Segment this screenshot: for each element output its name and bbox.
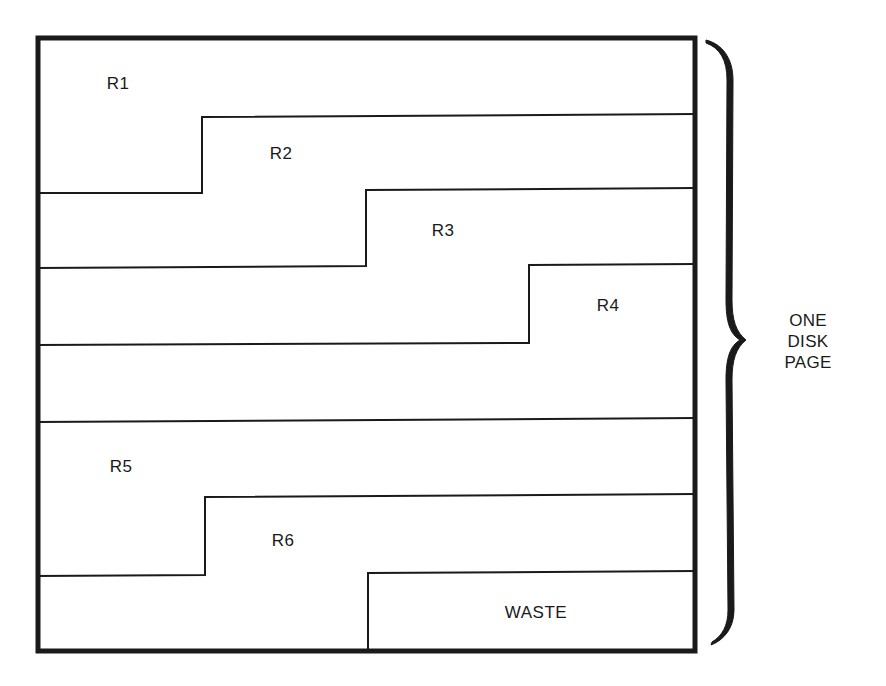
waste-label: WASTE: [505, 603, 567, 623]
curly-brace-icon: [706, 40, 746, 645]
one-disk-page-label-line-2: PAGE: [769, 352, 847, 373]
record-label-r6: R6: [272, 531, 295, 551]
disk-page-diagram: R1 R2 R3 R4 R5 R6 WASTE ONE DISK PAGE: [0, 0, 886, 686]
diagram-canvas: [0, 0, 886, 686]
one-disk-page-label: ONE DISK PAGE: [769, 310, 847, 373]
record-label-r2: R2: [270, 144, 293, 164]
record-label-r3: R3: [432, 221, 455, 241]
record-boundary-line-1: [36, 114, 696, 193]
record-label-r1: R1: [107, 74, 130, 94]
record-boundary-line-5: [36, 494, 696, 576]
record-boundary-line-2: [36, 188, 696, 268]
record-boundary-line-4: [36, 418, 696, 422]
record-label-r4: R4: [597, 296, 620, 316]
record-label-r5: R5: [110, 457, 133, 477]
one-disk-page-label-line-1: ONE DISK: [769, 310, 847, 352]
record-boundaries: [36, 114, 696, 652]
